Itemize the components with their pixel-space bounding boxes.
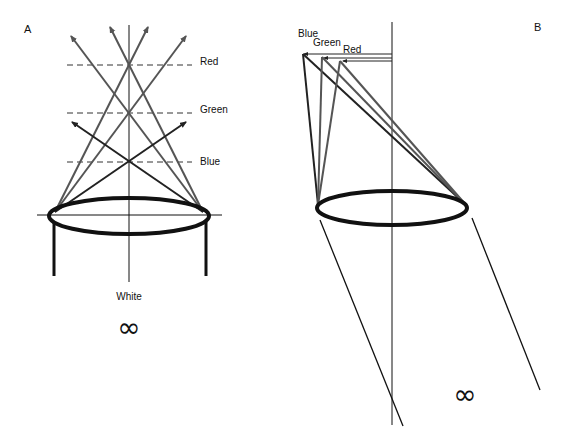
label-red: Red [200,56,218,67]
panel-a-label: A [24,23,32,35]
label-green: Green [200,104,228,115]
ray-green-b-right [322,57,466,205]
ray-blue-b-right [303,54,466,205]
label-green-b: Green [313,37,341,48]
infinity-symbol-b: ∞ [453,378,476,411]
diagram-canvas: A Red Green Blue White ∞ B [0,0,570,444]
ray-red-b-right [340,61,466,205]
panel-a: A Red Green Blue White ∞ [24,23,228,344]
label-red-b: Red [343,44,361,55]
panel-b: B Blue Green Red ∞ [298,21,541,426]
label-white: White [116,291,142,302]
ray-blue-b-left [303,54,318,205]
oblique-ray-right [472,218,540,390]
label-blue: Blue [200,156,220,167]
panel-b-label: B [534,21,541,33]
infinity-symbol-a: ∞ [117,311,140,344]
oblique-ray-left [320,220,403,426]
